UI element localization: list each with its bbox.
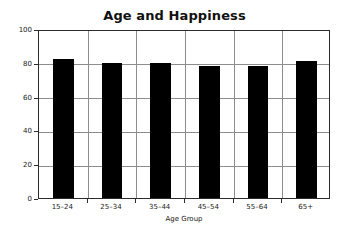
chart-figure: Age and Happiness 020406080100 15–2425–3… [0,0,349,237]
bar [199,66,219,198]
x-tick-label: 65+ [281,203,330,212]
x-tick-label: 45–54 [184,203,233,212]
plot-area [38,30,330,199]
bar-series [39,31,329,198]
x-tick-mark [281,199,282,203]
y-tick-label: 40 [2,127,32,135]
chart-title: Age and Happiness [0,8,349,23]
x-tick-label: 55–64 [233,203,282,212]
bar [53,59,73,198]
y-tick-label: 60 [2,94,32,102]
bar [248,66,268,198]
x-tick-label: 15–24 [38,203,87,212]
y-tick-label: 100 [2,26,32,34]
x-tick-label: 25–34 [87,203,136,212]
bar [150,63,170,198]
y-tick-label: 0 [2,195,32,203]
y-tick-label: 80 [2,60,32,68]
x-tick-mark [135,199,136,203]
bar [102,63,122,198]
bar [296,61,316,198]
y-tick-label: 20 [2,161,32,169]
x-tick-mark [184,199,185,203]
x-tick-label: 35–44 [135,203,184,212]
x-axis-label: Age Group [38,215,330,223]
x-tick-mark [233,199,234,203]
x-tick-mark [87,199,88,203]
y-tick-mark [34,199,38,200]
